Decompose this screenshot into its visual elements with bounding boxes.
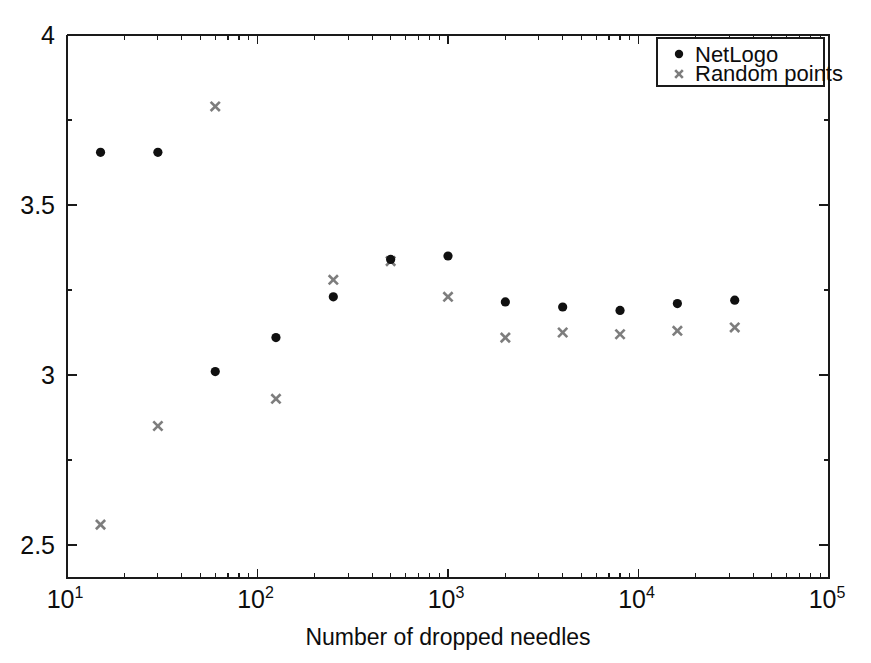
x-tick-label-2: 102 [237, 584, 274, 613]
y-axis-tick-labels: 43.532.5 [20, 21, 55, 559]
data-point-random [211, 102, 220, 111]
data-point-netlogo [153, 148, 162, 157]
series-random-points [96, 102, 739, 529]
y-tick-label-4: 4 [41, 21, 55, 49]
x-tick-label-5: 105 [809, 584, 846, 613]
x-axis-tick-labels: 101102103104105 [47, 584, 846, 613]
data-point-netlogo [673, 299, 682, 308]
data-point-netlogo [730, 296, 739, 305]
x-tick-label-4: 104 [618, 584, 655, 613]
legend-label-random-points: Random points [695, 61, 843, 86]
data-point-random [730, 323, 739, 332]
y-axis-ticks [67, 35, 829, 545]
x-tick-label-3: 103 [428, 584, 465, 613]
data-point-random [153, 421, 162, 430]
axis-frame [67, 35, 829, 578]
scatter-chart-figure: 101102103104105 43.532.5 NetLogo Random … [0, 0, 871, 663]
data-point-random [96, 520, 105, 529]
data-point-random [443, 292, 452, 301]
data-point-netlogo [443, 251, 452, 260]
legend-marker-netlogo [675, 50, 683, 58]
y-tick-label-3: 3 [41, 361, 55, 389]
data-point-netlogo [329, 292, 338, 301]
data-point-netlogo [386, 255, 395, 264]
data-point-netlogo [96, 148, 105, 157]
x-tick-label-1: 101 [47, 584, 84, 613]
data-point-netlogo [211, 367, 220, 376]
data-point-netlogo [615, 306, 624, 315]
series-netlogo [96, 148, 739, 377]
data-point-netlogo [558, 302, 567, 311]
data-point-random [615, 330, 624, 339]
y-tick-label-2-5: 2.5 [20, 531, 55, 559]
x-axis-title: Number of dropped needles [305, 624, 590, 650]
data-point-random [558, 328, 567, 337]
data-point-random [271, 394, 280, 403]
data-point-random [501, 333, 510, 342]
data-point-netlogo [271, 333, 280, 342]
plot-area: 101102103104105 43.532.5 NetLogo Random … [0, 0, 871, 663]
legend: NetLogo Random points [657, 38, 843, 86]
data-point-random [329, 275, 338, 284]
data-point-netlogo [501, 297, 510, 306]
data-point-random [673, 326, 682, 335]
x-axis-ticks [67, 35, 829, 578]
y-tick-label-3-5: 3.5 [20, 191, 55, 219]
